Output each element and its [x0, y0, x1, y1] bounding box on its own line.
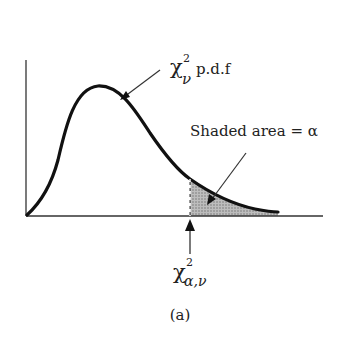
figure-caption: (a)	[170, 306, 191, 324]
shaded-pointer-arrow	[212, 153, 246, 199]
arrowhead-icon	[185, 219, 195, 231]
pdf-label-subscript: ν	[182, 70, 191, 88]
shaded-area-label: Shaded area = α	[190, 122, 318, 140]
chi-square-diagram: χ 2 ν p.d.f Shaded area = α χ 2 α,ν (a)	[0, 0, 357, 337]
pdf-label-text: p.d.f	[196, 60, 232, 78]
pdf-label-superscript: 2	[183, 52, 190, 65]
pdf-pointer-arrow	[124, 70, 160, 97]
critical-value-subscript: α,ν	[184, 273, 207, 289]
pdf-curve	[27, 86, 278, 215]
critical-value-superscript: 2	[186, 256, 193, 269]
